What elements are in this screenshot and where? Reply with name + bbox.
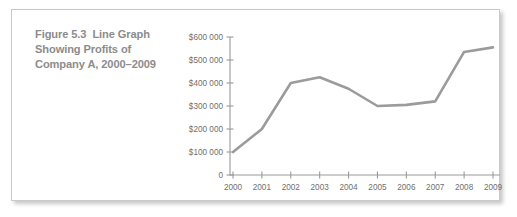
line-chart: 0$100 000$200 000$300 000$400 000$500 00… — [178, 24, 508, 210]
figure-panel: Figure 5.3 Line Graph Showing Profits of… — [11, 9, 500, 201]
x-axis-tick-label: 2005 — [368, 183, 387, 192]
x-axis-tick-label: 2001 — [253, 183, 272, 192]
x-axis-tick-label: 2002 — [282, 183, 301, 192]
y-axis-tick-label: $100 000 — [189, 148, 224, 157]
x-axis-tick-label: 2009 — [484, 183, 503, 192]
chart-canvas: 0$100 000$200 000$300 000$400 000$500 00… — [178, 24, 508, 210]
x-axis-tick-label: 2000 — [224, 183, 243, 192]
figure-caption: Figure 5.3 Line Graph Showing Profits of… — [35, 27, 171, 73]
y-axis-tick-label: $500 000 — [189, 56, 224, 65]
x-axis-tick-label: 2003 — [311, 183, 330, 192]
y-axis-tick-label: 0 — [218, 171, 223, 180]
figure-root: Figure 5.3 Line Graph Showing Profits of… — [0, 0, 517, 217]
x-axis-tick-labels: 2000200120022003200420052006200720082009 — [224, 183, 503, 192]
profit-series-line — [233, 47, 493, 152]
x-axis-tick-label: 2004 — [339, 183, 358, 192]
x-axis-tick-label: 2008 — [455, 183, 474, 192]
y-axis-tick-label: $200 000 — [189, 125, 224, 134]
x-axis-tick-label: 2007 — [426, 183, 445, 192]
y-axis-tick-label: $400 000 — [189, 79, 224, 88]
y-axis-tick-label: $600 000 — [189, 33, 224, 42]
y-axis-tick-labels: 0$100 000$200 000$300 000$400 000$500 00… — [189, 33, 224, 180]
figure-caption-label: Figure 5.3 — [35, 28, 86, 40]
y-axis-tick-label: $300 000 — [189, 102, 224, 111]
x-axis-tick-label: 2006 — [397, 183, 416, 192]
